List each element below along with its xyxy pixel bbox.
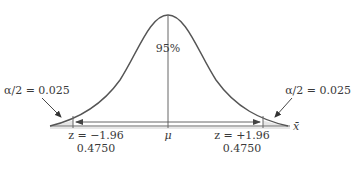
left-alpha-label: α/2 = 0.025 [4, 84, 70, 97]
left-area-label: 0.4750 [77, 142, 116, 155]
mean-label: μ [164, 129, 171, 142]
normal-curve-diagram: 95% α/2 = 0.025 α/2 = 0.025 z = −1.96 0.… [0, 0, 355, 169]
center-percent-label: 95% [156, 42, 180, 55]
right-z-label: z = +1.96 [214, 129, 270, 142]
axis-xbar-label: x̄ [293, 120, 300, 133]
bell-curve [50, 15, 288, 126]
right-area-label: 0.4750 [223, 142, 262, 155]
right-alpha-label: α/2 = 0.025 [285, 84, 351, 97]
left-tail-pointer [42, 98, 61, 117]
right-tail-pointer [275, 98, 292, 117]
left-z-label: z = −1.96 [68, 129, 124, 142]
